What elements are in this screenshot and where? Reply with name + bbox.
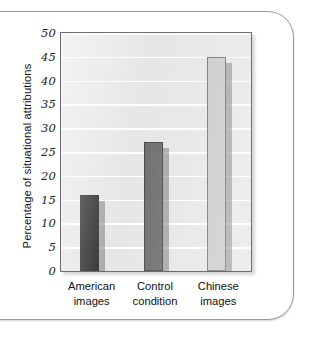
bar-shadow <box>99 201 105 271</box>
bar-fill <box>144 142 163 271</box>
x-axis-category-label: Chineseimages <box>177 279 260 308</box>
plot-area <box>60 32 252 272</box>
y-axis-tick-label: 50 <box>10 26 56 40</box>
bar <box>144 142 163 271</box>
bar <box>80 195 99 271</box>
y-axis-tick-label: 5 <box>10 240 56 254</box>
x-axis-label-line: Chinese <box>177 279 260 294</box>
bar-fill <box>80 195 99 271</box>
bar-fill <box>207 57 226 271</box>
y-axis-tick-label: 35 <box>10 97 56 111</box>
bar-shadow <box>163 148 169 271</box>
y-axis-tick-label: 25 <box>10 145 56 159</box>
y-axis-tick-label: 10 <box>10 216 56 230</box>
y-axis-tick-label: 30 <box>10 121 56 135</box>
x-axis-label-line: images <box>177 294 260 309</box>
bar-shadow <box>226 63 232 271</box>
y-axis-tick-label: 45 <box>10 50 56 64</box>
y-axis-tick-label: 40 <box>10 74 56 88</box>
y-axis-tick-labels: 05101520253035404550 <box>8 32 56 272</box>
y-axis-tick-label: 15 <box>10 193 56 207</box>
y-axis-tick-label: 0 <box>10 264 56 278</box>
x-axis-category-labels: AmericanimagesControlconditionChineseima… <box>60 279 252 321</box>
chart-figure: Percentage of situational attributions 0… <box>0 0 323 340</box>
y-axis-tick-label: 20 <box>10 169 56 183</box>
gridline <box>61 33 251 35</box>
bar <box>207 57 226 271</box>
